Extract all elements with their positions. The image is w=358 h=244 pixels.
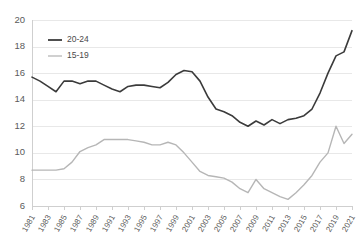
- line-chart: 20181614121086 1981198319851987198919911…: [0, 0, 358, 244]
- chart-canvas: 20181614121086 1981198319851987198919911…: [0, 0, 358, 244]
- x-axis-tick-label: 2021: [340, 213, 357, 233]
- x-axis-tick-label: 2013: [276, 213, 293, 233]
- y-axis-tick-label: 12: [14, 120, 25, 131]
- x-axis-tick-label: 2003: [196, 213, 213, 233]
- x-axis-tick-label: 2017: [308, 213, 325, 233]
- gridlines-group: [32, 21, 352, 207]
- x-axis-tick-label: 2001: [180, 213, 197, 233]
- y-axis-tick-label: 6: [20, 200, 25, 211]
- legend-label-20-24: 20-24: [67, 34, 89, 44]
- x-axis-tick-label: 2015: [292, 213, 309, 233]
- y-axis-tick-label: 8: [20, 173, 25, 184]
- x-axis-tick-label: 1983: [36, 213, 53, 233]
- y-axis-tick-label: 18: [14, 40, 25, 51]
- y-axis-labels-group: 20181614121086: [14, 14, 25, 211]
- y-axis-tick-label: 16: [14, 67, 25, 78]
- x-axis-tick-label: 2019: [324, 213, 341, 233]
- x-axis-tick-label: 1999: [164, 213, 181, 233]
- x-axis-tick-label: 2007: [228, 213, 245, 233]
- legend-label-15-19: 15-19: [67, 50, 89, 60]
- x-axis-tick-label: 1991: [100, 213, 117, 233]
- x-axis-tick-label: 2011: [261, 213, 278, 233]
- x-axis-tick-label: 2005: [212, 213, 229, 233]
- x-axis-tick-label: 1985: [52, 213, 69, 233]
- y-axis-tick-label: 14: [14, 93, 25, 104]
- x-axis-tick-label: 1993: [116, 213, 133, 233]
- x-axis-tick-label: 2009: [244, 213, 261, 233]
- y-axis-tick-label: 10: [14, 146, 25, 157]
- x-axis-tick-label: 1995: [132, 213, 149, 233]
- x-axis-tick-label: 1981: [20, 213, 37, 233]
- x-axis-labels-group: 1981198319851987198919911993199519971999…: [20, 213, 357, 233]
- x-axis-tick-label: 1989: [84, 213, 101, 233]
- series-line-20-24: [32, 31, 352, 127]
- x-axis-tick-label: 1997: [148, 213, 165, 233]
- x-axis-tick-label: 1987: [68, 213, 85, 233]
- y-axis-tick-label: 20: [14, 14, 25, 25]
- series-line-15-19: [32, 126, 352, 199]
